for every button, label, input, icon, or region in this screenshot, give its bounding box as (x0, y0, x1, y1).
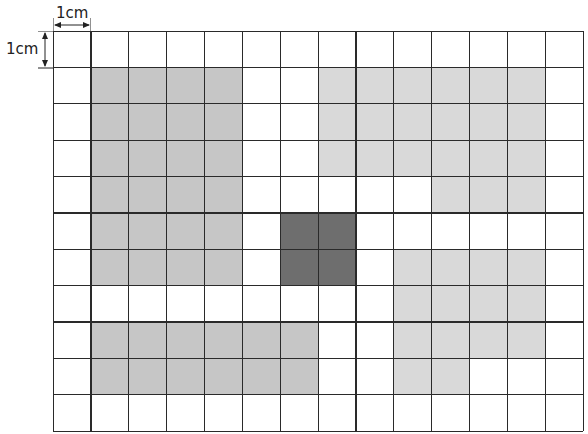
grid-line-vertical (431, 31, 432, 431)
grid-line-horizontal (53, 67, 583, 68)
grid-line-horizontal (53, 249, 583, 250)
grid-line-vertical (128, 31, 129, 431)
grid-line-horizontal (53, 431, 583, 432)
grid-line-vertical (583, 31, 584, 431)
grid-line-horizontal (53, 176, 583, 177)
unit-label-vertical: 1cm (6, 42, 38, 57)
top-right-shape (432, 176, 546, 212)
square-grid (53, 31, 583, 431)
grid-line-vertical (507, 31, 508, 431)
grid-line-horizontal (53, 285, 583, 286)
grid-line-horizontal (53, 103, 583, 104)
grid-line-vertical (469, 31, 470, 431)
grid-line-vertical (355, 31, 356, 431)
dimension-arrow-vertical-icon (38, 31, 53, 69)
grid-line-vertical (204, 31, 205, 431)
grid-line-horizontal (53, 358, 583, 359)
grid-line-vertical (166, 31, 167, 431)
grid-line-vertical (53, 31, 54, 431)
grid-line-vertical (90, 31, 91, 431)
grid-line-vertical (318, 31, 319, 431)
grid-line-horizontal (53, 140, 583, 141)
grid-line-horizontal (53, 31, 583, 32)
grid-line-vertical (242, 31, 243, 431)
grid-line-vertical (545, 31, 546, 431)
grid-line-horizontal (53, 212, 583, 213)
grid-line-horizontal (53, 394, 583, 395)
grid-line-vertical (280, 31, 281, 431)
grid-line-vertical (393, 31, 394, 431)
grid-line-horizontal (53, 321, 583, 322)
